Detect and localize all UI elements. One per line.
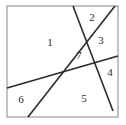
- region-label-4: 4: [103, 67, 117, 78]
- region-subdivision-figure: 1 2 3 4 5 6 7: [0, 0, 126, 125]
- region-label-2: 2: [85, 12, 99, 23]
- region-label-3: 3: [94, 35, 108, 46]
- region-label-1: 1: [43, 37, 57, 48]
- figure-canvas: [0, 0, 126, 125]
- region-label-6: 6: [14, 94, 28, 105]
- region-label-5: 5: [77, 93, 91, 104]
- region-label-7: 7: [72, 50, 86, 61]
